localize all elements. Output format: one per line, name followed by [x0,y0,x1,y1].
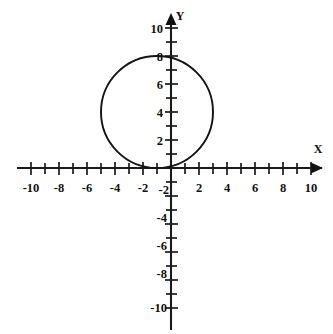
x-tick-label: 6 [252,181,258,195]
x-tick-label: -8 [54,181,64,195]
x-axis-label: X [314,142,323,156]
y-tick-label: 10 [151,22,164,36]
x-tick-label: -2 [138,181,148,195]
x-tick-label: -6 [82,181,92,195]
x-tick-label: 4 [224,181,231,195]
x-tick-label: -10 [23,181,40,195]
x-axis-arrow-icon [311,163,323,174]
y-tick-label: -6 [157,239,167,253]
y-tick-label: 2 [157,134,163,148]
x-tick-label: 2 [196,181,202,195]
cartesian-plot-svg: -10 -8 -6 -4 -2 2 4 6 8 10 10 8 6 4 2 -2… [0,0,333,334]
y-tick-label: -10 [150,301,167,315]
y-tick-label: -2 [159,183,169,197]
x-tick-label: -4 [110,181,121,195]
coordinate-plane-figure: -10 -8 -6 -4 -2 2 4 6 8 10 10 8 6 4 2 -2… [0,0,333,334]
x-tick-label: 8 [280,181,286,195]
y-tick-label: 6 [157,78,163,92]
x-tick-label: 10 [305,181,318,195]
y-tick-label: -8 [157,267,167,281]
y-tick-label: -4 [157,211,168,225]
y-tick-label: 8 [157,50,163,64]
y-axis-label: Y [176,9,185,23]
y-tick-label: 4 [157,106,164,120]
